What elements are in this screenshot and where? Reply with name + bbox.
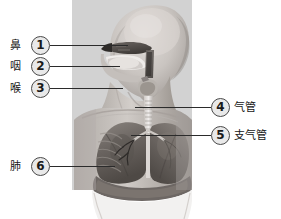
leader-line-1 (50, 45, 128, 46)
leader-line-3 (50, 88, 123, 89)
callout-label-bronchus: 支气管 (234, 129, 267, 142)
callout-label-lungs: 肺 (10, 160, 21, 173)
leader-line-6 (50, 166, 115, 167)
callout-marker-6[interactable]: 6 (31, 157, 50, 176)
callout-marker-4[interactable]: 4 (211, 98, 230, 117)
leader-line-4 (135, 107, 211, 108)
callout-marker-5[interactable]: 5 (211, 126, 230, 145)
callout-marker-3[interactable]: 3 (31, 79, 50, 98)
leader-line-2 (50, 66, 120, 67)
leader-line-5 (131, 135, 211, 136)
callout-label-nose: 鼻 (10, 39, 21, 52)
respiratory-system-figure: 1 2 3 4 5 6 鼻 咽 喉 气管 支气管 肺 (0, 0, 281, 219)
callout-label-pharynx: 咽 (10, 60, 21, 73)
callout-marker-1[interactable]: 1 (31, 36, 50, 55)
callout-marker-2[interactable]: 2 (31, 57, 50, 76)
callout-label-trachea: 气管 (234, 101, 256, 114)
callout-label-larynx: 喉 (10, 82, 21, 95)
